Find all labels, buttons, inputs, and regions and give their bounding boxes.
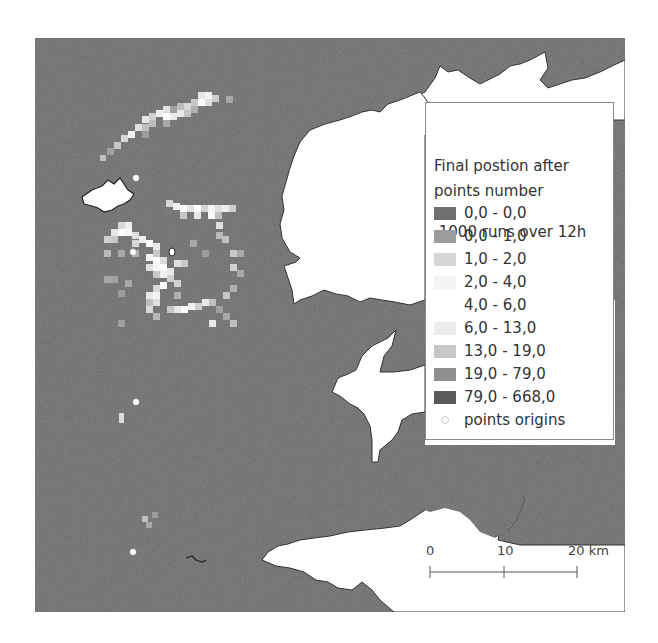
legend-item: 2,0 - 4,0 bbox=[434, 272, 527, 292]
legend-item: 1,0 - 2,0 bbox=[434, 249, 527, 269]
legend-item-label: 4,0 - 6,0 bbox=[464, 296, 527, 314]
origin-point[interactable] bbox=[133, 399, 139, 405]
origin-point-icon bbox=[434, 414, 456, 427]
legend-item-label: 0,0 - 1,0 bbox=[464, 227, 527, 245]
legend-swatch-icon bbox=[434, 299, 456, 312]
origin-point[interactable] bbox=[133, 175, 139, 181]
legend-swatch-icon bbox=[434, 391, 456, 404]
legend-item: 13,0 - 19,0 bbox=[434, 341, 546, 361]
origin-point[interactable] bbox=[130, 249, 136, 255]
legend-item-label: 2,0 - 4,0 bbox=[464, 273, 527, 291]
legend-item-label: 0,0 - 0,0 bbox=[464, 204, 527, 222]
legend-swatch-icon bbox=[434, 368, 456, 381]
legend-item-origins: points origins bbox=[434, 410, 565, 430]
scale-label-20: 20 km bbox=[568, 543, 609, 558]
legend-swatch-icon bbox=[434, 345, 456, 358]
legend-item-label: points origins bbox=[464, 411, 565, 429]
molene-island bbox=[169, 248, 175, 256]
map-legend: Final postion after 1000 runs over 12h p… bbox=[425, 102, 614, 440]
legend-item-label: 1,0 - 2,0 bbox=[464, 250, 527, 268]
legend-subtitle: points number bbox=[434, 181, 543, 201]
legend-swatch-icon bbox=[434, 276, 456, 289]
scale-label-10: 10 bbox=[497, 543, 514, 558]
legend-swatch-icon bbox=[434, 253, 456, 266]
legend-item: 4,0 - 6,0 bbox=[434, 295, 527, 315]
legend-item-label: 13,0 - 19,0 bbox=[464, 342, 546, 360]
legend-swatch-icon bbox=[434, 230, 456, 243]
legend-swatch-icon bbox=[434, 207, 456, 220]
legend-item: 19,0 - 79,0 bbox=[434, 364, 546, 384]
scale-bar: 0 10 20 km bbox=[425, 543, 615, 583]
legend-item: 0,0 - 1,0 bbox=[434, 226, 527, 246]
scale-label-0: 0 bbox=[426, 543, 434, 558]
legend-item: 6,0 - 13,0 bbox=[434, 318, 536, 338]
legend-item: 0,0 - 0,0 bbox=[434, 203, 527, 223]
legend-swatch-icon bbox=[434, 322, 456, 335]
legend-item: 79,0 - 668,0 bbox=[434, 387, 555, 407]
origin-point[interactable] bbox=[130, 549, 136, 555]
legend-item-label: 79,0 - 668,0 bbox=[464, 388, 555, 406]
legend-item-label: 6,0 - 13,0 bbox=[464, 319, 536, 337]
legend-item-label: 19,0 - 79,0 bbox=[464, 365, 546, 383]
legend-title-line1: Final postion after bbox=[434, 155, 586, 177]
